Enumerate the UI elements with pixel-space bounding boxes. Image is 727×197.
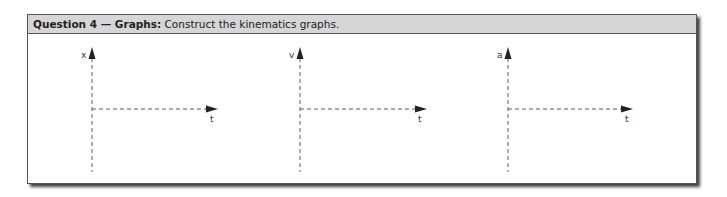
x-axis-label: t	[625, 114, 629, 124]
graph-position-time[interactable]: x t	[81, 47, 218, 172]
graph-velocity-time[interactable]: v t	[289, 47, 427, 172]
y-axis-label: a	[497, 50, 503, 60]
graphs-canvas: x t v t a t	[0, 0, 727, 197]
x-axis-arrow-icon	[206, 106, 218, 113]
y-axis-arrow-icon	[297, 47, 304, 59]
graph-acceleration-time[interactable]: a t	[497, 47, 633, 172]
x-axis-label: t	[418, 114, 422, 124]
x-axis-arrow-icon	[415, 106, 427, 113]
x-axis-arrow-icon	[621, 106, 633, 113]
y-axis-arrow-icon	[89, 47, 96, 59]
y-axis-arrow-icon	[505, 47, 512, 59]
x-axis-label: t	[210, 114, 214, 124]
y-axis-label: x	[81, 50, 87, 60]
y-axis-label: v	[289, 50, 295, 60]
